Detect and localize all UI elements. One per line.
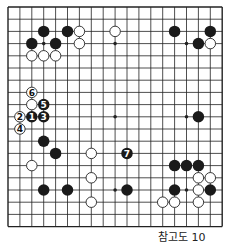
star-point [185, 188, 189, 192]
black-stone [193, 38, 205, 50]
black-stone [38, 26, 50, 38]
move-number: 5 [41, 100, 47, 110]
white-stone: 2 [15, 112, 26, 123]
white-stone [38, 51, 49, 62]
black-stone [50, 38, 62, 50]
white-stone [193, 173, 204, 184]
white-stone [27, 160, 38, 171]
white-stone [193, 197, 204, 208]
move-number: 7 [124, 149, 130, 159]
white-stone [27, 99, 38, 110]
black-stone [205, 26, 217, 38]
black-stone [169, 160, 181, 172]
white-stone [86, 197, 97, 208]
move-number: 4 [17, 124, 23, 134]
black-stone [181, 160, 193, 172]
diagram-caption: 참고도 10 [158, 228, 206, 242]
black-stone [169, 26, 181, 38]
star-point [113, 188, 117, 192]
go-board: 6521347 [0, 0, 229, 232]
white-stone [205, 173, 216, 184]
white-stone [157, 197, 168, 208]
star-point [185, 115, 189, 119]
white-stone [27, 51, 38, 62]
black-stone [62, 184, 74, 196]
move-number: 2 [17, 112, 23, 122]
white-stone [193, 185, 204, 196]
black-stone [193, 160, 205, 172]
black-stone: 5 [38, 99, 50, 111]
black-stone: 7 [121, 148, 133, 160]
white-stone [205, 38, 216, 49]
black-stone [38, 184, 50, 196]
white-stone [110, 26, 121, 37]
black-stone [169, 184, 181, 196]
white-stone [86, 173, 97, 184]
move-number: 6 [29, 88, 35, 98]
black-stone: 1 [26, 111, 38, 123]
move-number: 1 [29, 112, 35, 122]
white-stone [74, 26, 85, 37]
white-stone: 4 [15, 124, 26, 135]
star-point [185, 42, 189, 46]
white-stone: 6 [27, 87, 38, 98]
white-stone [169, 197, 180, 208]
white-stone [74, 38, 85, 49]
star-point [113, 115, 117, 119]
black-stone [62, 26, 74, 38]
black-stone [38, 135, 50, 147]
white-stone [86, 148, 97, 159]
move-number: 3 [41, 112, 47, 122]
star-point [113, 42, 117, 46]
black-stone [50, 148, 62, 160]
black-stone: 3 [38, 111, 50, 123]
black-stone [205, 184, 217, 196]
star-point [42, 42, 46, 46]
black-stone [193, 111, 205, 123]
white-stone [50, 51, 61, 62]
black-stone [26, 38, 38, 50]
black-stone [121, 184, 133, 196]
